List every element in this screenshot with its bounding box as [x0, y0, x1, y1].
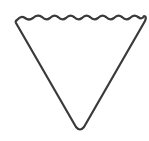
figure-canvas	[0, 0, 149, 141]
triangle-outline	[16, 16, 146, 130]
wavy-inverted-triangle-icon	[0, 0, 149, 141]
